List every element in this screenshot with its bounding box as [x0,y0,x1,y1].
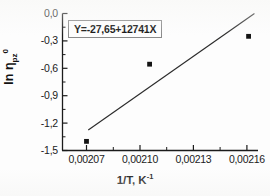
y-tick-label: -0,9 [24,90,58,101]
x-axis-title-text: 1/T, K [117,174,147,186]
y-tick-label: -1,2 [24,118,58,129]
x-tick-label-group: 0,00207 0,00210 0,00213 0,00216 [0,153,270,167]
x-tick-label: 0,00207 [69,153,105,165]
data-point [84,139,89,144]
y-tick-label: -0,3 [24,35,58,46]
equation-annotation: Y=-27,65+12741X [68,20,162,38]
y-axis-title-eta: η [2,62,16,70]
data-point-markers [84,34,251,144]
x-axis-title: 1/T, K-1 [0,172,270,186]
x-tick-label: 0,00216 [229,153,265,165]
x-tick-label: 0,00210 [122,153,158,165]
y-axis-title: ln ηpz0 [1,35,19,99]
y-tick-label: 0,0 [24,8,58,19]
y-tick-label: -0,6 [24,63,58,74]
y-axis-title-ln: ln [2,70,16,85]
x-tick-label: 0,00213 [175,153,211,165]
data-point [147,62,152,67]
x-axis-title-exponent: -1 [147,172,154,181]
y-axis-title-subscript: pz [10,54,19,63]
y-axis-title-superscript: 0 [1,49,10,53]
data-point [246,34,251,39]
chart-figure: 0,0 -0,3 -0,6 -0,9 -1,2 -1,5 0,00207 0,0… [0,0,270,196]
